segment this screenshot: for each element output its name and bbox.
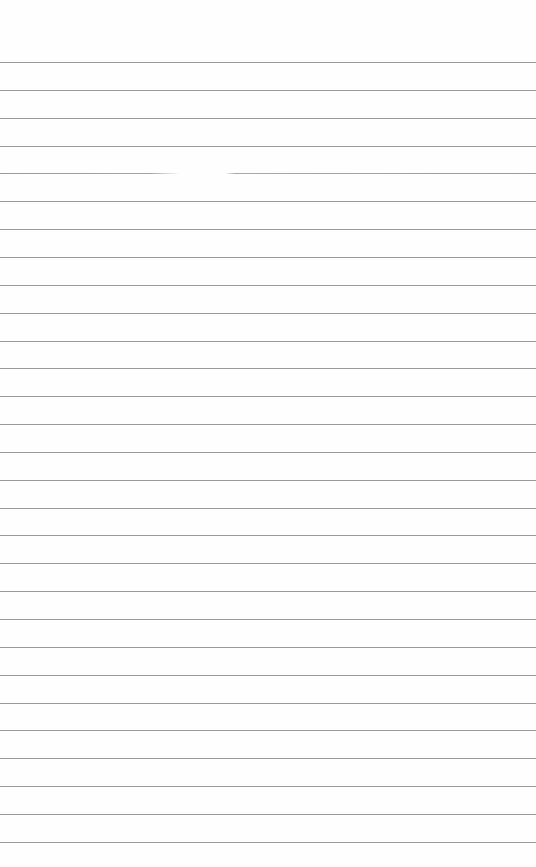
ruled-line xyxy=(0,229,536,230)
ruled-line xyxy=(0,118,536,119)
ruled-line xyxy=(0,480,536,481)
ruled-line xyxy=(0,703,536,704)
ruled-line xyxy=(0,285,536,286)
ruled-line xyxy=(0,368,536,369)
ruled-line xyxy=(0,647,536,648)
ruled-line xyxy=(0,591,536,592)
ruled-line xyxy=(0,786,536,787)
ruled-line xyxy=(0,675,536,676)
ruled-line xyxy=(0,90,536,91)
ruled-line xyxy=(0,814,536,815)
ruled-line xyxy=(0,563,536,564)
ruled-line xyxy=(0,62,536,63)
ruled-line xyxy=(0,257,536,258)
ruled-line xyxy=(0,173,536,174)
ruled-line xyxy=(0,201,536,202)
lined-paper xyxy=(0,0,536,867)
ruled-line xyxy=(0,619,536,620)
ruled-line xyxy=(0,508,536,509)
ruled-line xyxy=(0,535,536,536)
ruled-line xyxy=(0,313,536,314)
ruled-line xyxy=(0,146,536,147)
ruled-line xyxy=(0,341,536,342)
ruled-line xyxy=(0,730,536,731)
ruled-line xyxy=(0,396,536,397)
ruled-line xyxy=(0,758,536,759)
ruled-line xyxy=(0,842,536,843)
ruled-line xyxy=(0,424,536,425)
ruled-line xyxy=(0,452,536,453)
